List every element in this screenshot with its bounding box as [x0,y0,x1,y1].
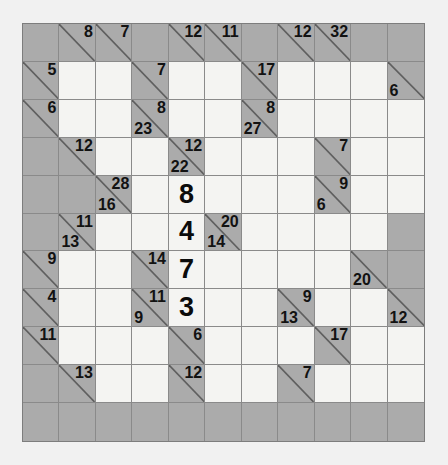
empty-cell[interactable] [205,289,241,327]
empty-cell[interactable] [205,365,241,403]
clue-down-value: 20 [353,271,371,288]
empty-cell[interactable] [242,251,278,289]
empty-cell[interactable] [205,251,241,289]
block-cell [242,24,278,62]
clue-cell: 827 [242,100,278,138]
clue-cell: 1222 [169,138,205,176]
empty-cell[interactable] [242,176,278,214]
answer-digit: 7 [169,251,204,288]
clue-across-value: 9 [303,289,312,305]
filled-cell[interactable]: 7 [169,251,205,289]
answer-digit: 8 [169,176,204,213]
clue-cell: 17 [242,62,278,100]
clue-cell: 17 [315,327,351,365]
empty-cell[interactable] [388,365,424,403]
empty-cell[interactable] [351,365,387,403]
empty-cell[interactable] [96,138,132,176]
empty-cell[interactable] [242,138,278,176]
clue-across-value: 8 [266,100,275,116]
empty-cell[interactable] [132,214,168,252]
clue-across-value: 6 [48,100,57,116]
empty-cell[interactable] [351,138,387,176]
empty-cell[interactable] [278,176,314,214]
empty-cell[interactable] [315,365,351,403]
clue-across-value: 7 [339,138,348,154]
empty-cell[interactable] [242,214,278,252]
empty-cell[interactable] [96,365,132,403]
empty-cell[interactable] [351,327,387,365]
filled-cell[interactable]: 3 [169,289,205,327]
empty-cell[interactable] [205,327,241,365]
empty-cell[interactable] [278,100,314,138]
clue-down-value: 9 [134,309,143,326]
empty-cell[interactable] [132,327,168,365]
empty-cell[interactable] [351,214,387,252]
empty-cell[interactable] [315,289,351,327]
clue-down-value: 22 [171,158,189,175]
empty-cell[interactable] [315,214,351,252]
clue-across-value: 17 [330,327,348,343]
clue-cell: 7 [96,24,132,62]
empty-cell[interactable] [96,327,132,365]
empty-cell[interactable] [351,62,387,100]
clue-cell: 6 [169,327,205,365]
empty-cell[interactable] [169,100,205,138]
empty-cell[interactable] [96,251,132,289]
empty-cell[interactable] [205,62,241,100]
empty-cell[interactable] [96,289,132,327]
clue-across-value: 17 [257,62,275,78]
empty-cell[interactable] [351,176,387,214]
empty-cell[interactable] [59,100,95,138]
clue-down-value: 6 [317,196,326,213]
empty-cell[interactable] [59,62,95,100]
empty-cell[interactable] [242,365,278,403]
clue-cell: 7 [132,62,168,100]
clue-across-value: 11 [40,327,57,343]
clue-cell: 2014 [205,214,241,252]
empty-cell[interactable] [242,327,278,365]
empty-cell[interactable] [59,327,95,365]
filled-cell[interactable]: 4 [169,214,205,252]
filled-cell[interactable]: 8 [169,176,205,214]
empty-cell[interactable] [278,214,314,252]
empty-cell[interactable] [388,100,424,138]
empty-cell[interactable] [59,289,95,327]
empty-cell[interactable] [278,251,314,289]
empty-cell[interactable] [388,176,424,214]
clue-down-value: 13 [61,233,79,250]
empty-cell[interactable] [351,289,387,327]
empty-cell[interactable] [132,176,168,214]
clue-cell: 14 [132,251,168,289]
empty-cell[interactable] [278,327,314,365]
empty-cell[interactable] [278,62,314,100]
clue-across-value: 7 [157,62,166,78]
empty-cell[interactable] [169,62,205,100]
empty-cell[interactable] [388,327,424,365]
empty-cell[interactable] [59,251,95,289]
clue-cell: 12 [169,24,205,62]
empty-cell[interactable] [205,176,241,214]
block-cell [315,403,351,441]
empty-cell[interactable] [132,365,168,403]
empty-cell[interactable] [96,100,132,138]
empty-cell[interactable] [388,138,424,176]
empty-cell[interactable] [315,100,351,138]
block-cell [169,403,205,441]
clue-across-value: 9 [339,176,348,192]
clue-across-value: 28 [112,176,130,192]
block-cell [388,214,424,252]
clue-across-value: 8 [84,24,93,40]
empty-cell[interactable] [242,289,278,327]
empty-cell[interactable] [351,100,387,138]
empty-cell[interactable] [96,214,132,252]
kakuro-grid[interactable]: 8712111232571766823827121222728168961113… [22,23,425,442]
clue-down-value: 6 [390,82,399,99]
empty-cell[interactable] [96,62,132,100]
empty-cell[interactable] [278,138,314,176]
empty-cell[interactable] [205,100,241,138]
empty-cell[interactable] [315,62,351,100]
empty-cell[interactable] [205,138,241,176]
clue-cell: 4 [23,289,59,327]
empty-cell[interactable] [315,251,351,289]
empty-cell[interactable] [132,138,168,176]
